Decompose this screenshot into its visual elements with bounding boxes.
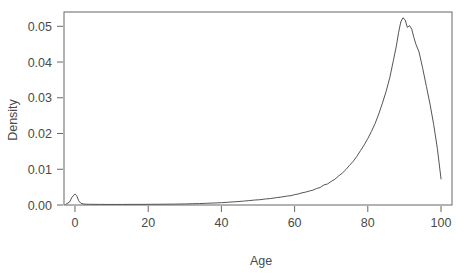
y-tick-label: 0.05 [28,20,52,34]
x-tick-label: 60 [288,216,302,230]
x-tick-label: 40 [214,216,228,230]
y-tick-label: 0.03 [28,91,52,105]
y-tick-label: 0.00 [28,199,52,213]
x-tick-label: 20 [141,216,155,230]
y-tick-label: 0.01 [28,163,52,177]
x-tick-label: 100 [431,216,452,230]
plot-background [0,0,472,280]
y-tick-label: 0.04 [28,56,52,70]
density-plot-figure: 020406080100 0.000.010.020.030.040.05 Ag… [0,0,472,280]
x-tick-label: 80 [361,216,375,230]
x-axis-title: Age [250,254,272,268]
y-axis-title: Density [6,98,20,140]
y-tick-label: 0.02 [28,127,52,141]
x-tick-label: 0 [72,216,79,230]
chart-canvas: 020406080100 0.000.010.020.030.040.05 Ag… [0,0,472,280]
